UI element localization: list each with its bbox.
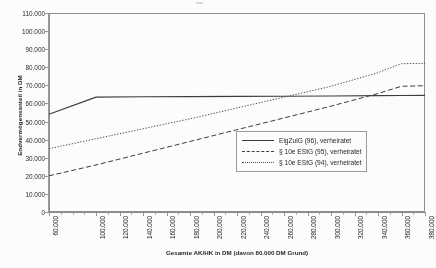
- x-axis-tick-label: 120.000: [122, 216, 129, 239]
- legend-line-solid-icon: [241, 136, 275, 145]
- x-axis-tick-label: 60.000: [52, 216, 59, 236]
- x-axis-minor-tick: [225, 213, 226, 215]
- y-axis-tick: [44, 13, 48, 14]
- chart-container: Endvermögensanteil in DM 010.00020.00030…: [0, 0, 436, 268]
- y-axis-tick: [44, 103, 48, 104]
- legend-item: § 10e EStG (94), verheiratet: [241, 157, 361, 168]
- x-axis-minor-tick: [413, 213, 414, 215]
- y-axis-tick-label: 90.000: [25, 46, 45, 53]
- y-axis-tick-label: 20.000: [25, 172, 45, 179]
- y-axis-tick-label: 60.000: [25, 100, 45, 107]
- x-axis-tick: [49, 213, 50, 216]
- x-axis-tick-label: 180.000: [193, 216, 200, 239]
- x-axis-minor-tick: [84, 213, 85, 215]
- x-axis-tick-label: 360.000: [404, 216, 411, 239]
- y-axis-tick-label: 100.000: [22, 28, 45, 35]
- y-axis-tick-label: 50.000: [25, 118, 45, 125]
- x-axis-tick: [214, 213, 215, 216]
- x-axis-minor-tick: [61, 213, 62, 215]
- y-axis-tick: [44, 212, 48, 213]
- scan-artifact: [196, 2, 203, 4]
- x-axis-tick: [402, 213, 403, 216]
- legend-label: § 10e EStG (95), verheiratet: [279, 148, 361, 155]
- legend-item: EigZulG (96), verheiratet: [241, 135, 361, 146]
- y-axis-tick-label: 110.000: [22, 10, 45, 17]
- y-axis-tick: [44, 158, 48, 159]
- x-axis-tick: [425, 213, 426, 216]
- x-axis-minor-tick: [131, 213, 132, 215]
- y-axis-tick: [44, 122, 48, 123]
- x-axis-tick-label: 220.000: [240, 216, 247, 239]
- y-axis-tick-label: 70.000: [25, 82, 45, 89]
- x-axis-tick-label: 260.000: [287, 216, 294, 239]
- legend-line-dotted-icon: [241, 158, 275, 167]
- x-axis-tick-label: 140.000: [146, 216, 153, 239]
- x-axis-minor-tick: [202, 213, 203, 215]
- x-axis-minor-tick: [366, 213, 367, 215]
- y-axis-tick-label: 40.000: [25, 136, 45, 143]
- x-axis-tick-label: 320.000: [357, 216, 364, 239]
- y-axis-tick-label: 10.000: [25, 190, 45, 197]
- x-axis-minor-tick: [178, 213, 179, 215]
- x-axis-tick-label: 160.000: [169, 216, 176, 239]
- legend-label: § 10e EStG (94), verheiratet: [279, 159, 361, 166]
- y-axis-tick: [44, 85, 48, 86]
- y-axis-tick: [44, 31, 48, 32]
- x-axis-minor-tick: [272, 213, 273, 215]
- legend-label: EigZulG (96), verheiratet: [279, 137, 351, 144]
- x-axis-minor-tick: [343, 213, 344, 215]
- y-axis-tick-label: 80.000: [25, 64, 45, 71]
- x-axis-tick-label: 380.000: [428, 216, 435, 239]
- x-axis-tick: [355, 213, 356, 216]
- x-axis-tick: [237, 213, 238, 216]
- x-axis-minor-tick: [319, 213, 320, 215]
- y-axis-tick: [44, 140, 48, 141]
- x-axis-tick: [190, 213, 191, 216]
- x-axis-tick: [261, 213, 262, 216]
- x-axis-minor-tick: [73, 213, 74, 215]
- x-axis-minor-tick: [249, 213, 250, 215]
- x-axis-tick: [167, 213, 168, 216]
- x-axis-tick-label: 300.000: [334, 216, 341, 239]
- x-axis-tick-labels: 60.000100.000120.000140.000160.000180.00…: [0, 216, 436, 268]
- x-axis-tick-label: 240.000: [263, 216, 270, 239]
- chart-legend: EigZulG (96), verheiratet § 10e EStG (95…: [236, 131, 367, 172]
- data-series-layer: [49, 13, 425, 212]
- x-axis-tick-label: 280.000: [310, 216, 317, 239]
- x-axis-minor-tick: [296, 213, 297, 215]
- x-axis-minor-tick: [155, 213, 156, 215]
- y-axis-tick: [44, 176, 48, 177]
- x-axis-minor-tick: [108, 213, 109, 215]
- x-axis-tick: [331, 213, 332, 216]
- series-line: [49, 95, 425, 114]
- x-axis-tick: [96, 213, 97, 216]
- x-axis-tick-label: 100.000: [99, 216, 106, 239]
- x-axis-title: Gesamte AK/HK in DM (davon 80.000 DM Gru…: [49, 249, 425, 256]
- x-axis-tick-label: 340.000: [381, 216, 388, 239]
- x-axis-tick: [378, 213, 379, 216]
- x-axis-tick: [120, 213, 121, 216]
- legend-item: § 10e EStG (95), verheiratet: [241, 146, 361, 157]
- y-axis-tick: [44, 67, 48, 68]
- x-axis-tick: [143, 213, 144, 216]
- x-axis-minor-tick: [390, 213, 391, 215]
- legend-line-dashed-icon: [241, 147, 275, 156]
- x-axis-tick: [308, 213, 309, 216]
- y-axis-tick: [44, 194, 48, 195]
- x-axis-tick: [284, 213, 285, 216]
- y-axis-tick-label: 30.000: [25, 154, 45, 161]
- y-axis-tick: [44, 49, 48, 50]
- x-axis-tick-label: 200.000: [216, 216, 223, 239]
